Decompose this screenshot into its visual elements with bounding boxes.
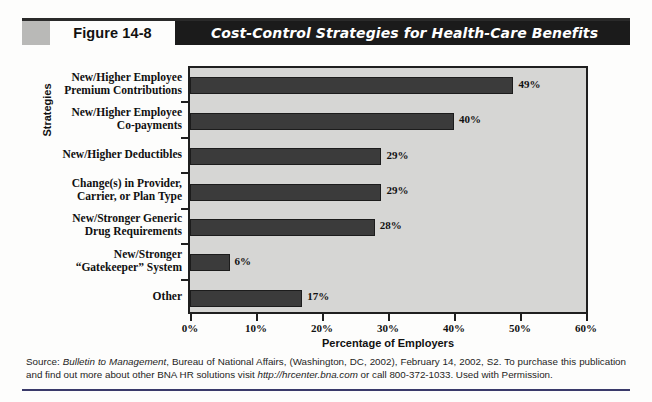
bar-value-label: 17% [307, 291, 329, 302]
bar-value-label: 40% [459, 114, 481, 125]
figure-container: Figure 14-8 Cost-Control Strategies for … [0, 0, 652, 402]
y-axis-category-label: New/Higher Deductibles [4, 148, 182, 161]
y-axis-tick [181, 137, 188, 139]
x-axis-tick-label: 40% [431, 322, 477, 334]
y-axis-tick [181, 279, 188, 281]
y-axis-tick [181, 101, 188, 103]
bar-value-label: 28% [380, 220, 402, 231]
bar-value-label: 29% [386, 150, 408, 161]
x-axis-tick [454, 314, 456, 321]
x-axis-tick [322, 314, 324, 321]
x-axis-tick [256, 314, 258, 321]
chart-bar [190, 148, 381, 165]
header-title-bar: Cost-Control Strategies for Health-Care … [175, 21, 630, 45]
y-axis-tick [181, 208, 188, 210]
x-axis-tick [520, 314, 522, 321]
x-axis-tick [190, 314, 192, 321]
footer-rule [22, 389, 630, 391]
y-axis-category-label: Change(s) in Provider, Carrier, or Plan … [4, 177, 182, 203]
y-axis-category-label: New/Stronger Generic Drug Requirements [4, 212, 182, 238]
y-axis-category-label: Other [4, 290, 182, 303]
y-axis-tick [181, 243, 188, 245]
y-axis-category-label: New/Higher Employee Premium Contribution… [4, 71, 182, 97]
x-axis-tick [388, 314, 390, 321]
x-axis-tick-label: 0% [167, 322, 213, 334]
y-axis-labels: New/Higher Employee Premium Contribution… [0, 66, 182, 314]
figure-title: Cost-Control Strategies for Health-Care … [211, 25, 598, 41]
x-axis-title: Percentage of Employers [188, 337, 588, 349]
chart-bar [190, 254, 230, 271]
chart-bar [190, 290, 302, 307]
y-axis-category-label: New/Higher Employee Co-payments [4, 106, 182, 132]
chart-bar [190, 184, 381, 201]
header-gray-block [22, 21, 50, 45]
x-axis-tick-label: 10% [233, 322, 279, 334]
figure-number-label: Figure 14-8 [50, 21, 175, 45]
x-axis-tick-label: 60% [563, 322, 609, 334]
chart-bar [190, 113, 454, 130]
source-note: Source: Bulletin to Management, Bureau o… [26, 356, 626, 381]
source-publication-title: Bulletin to Management [63, 356, 166, 367]
y-axis-tick [181, 172, 188, 174]
x-axis-tick-label: 20% [299, 322, 345, 334]
bar-value-label: 29% [386, 185, 408, 196]
x-axis-tick-label: 50% [497, 322, 543, 334]
figure-header-band: Figure 14-8 Cost-Control Strategies for … [22, 21, 630, 45]
bar-value-label: 49% [518, 79, 540, 90]
chart-bar [190, 77, 513, 94]
y-axis-category-label: New/Stronger “Gatekeeper” System [4, 248, 182, 274]
chart-bar [190, 219, 375, 236]
bar-value-label: 6% [235, 256, 252, 267]
x-axis-tick-label: 30% [365, 322, 411, 334]
source-url: http://hrcenter.bna.com [257, 369, 357, 380]
x-axis-tick [586, 314, 588, 321]
